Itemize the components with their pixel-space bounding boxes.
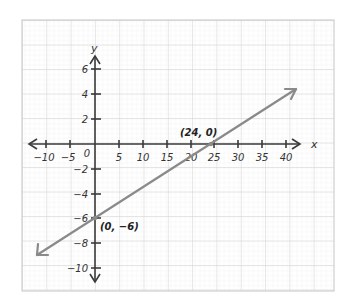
x-tick-label: 40 [280,152,293,163]
x-intercept-point [209,142,213,146]
x-tick-label: 5 [116,152,122,163]
x-tick-label: 25 [208,152,221,163]
x-tick-label: 35 [256,152,269,163]
x-tick-label: 0 [84,148,90,159]
coordinate-plane: x y −10 −5 0 5 10 15 20 25 30 35 40 6 4 … [0,0,342,302]
y-tick-label: 4 [82,89,88,100]
y-tick-label: −8 [73,238,88,249]
y-axis-label: y [90,42,98,55]
y-tick-label: −10 [67,263,88,274]
x-tick-label: 10 [137,152,150,163]
x-tick-label: −10 [33,152,54,163]
y-tick-label: −6 [73,213,88,224]
x-axis-label: x [310,138,318,151]
y-intercept-label: (0, −6) [100,221,139,232]
y-tick-label: −4 [73,189,88,200]
y-tick-label: 6 [82,64,88,75]
y-tick-label: 2 [82,114,88,125]
x-intercept-label: (24, 0) [180,127,217,138]
x-tick-label: 15 [161,152,174,163]
y-tick-label: −2 [73,164,88,175]
x-tick-label: 30 [232,152,245,163]
y-intercept-point [93,216,97,220]
x-tick-label: −5 [61,152,76,163]
